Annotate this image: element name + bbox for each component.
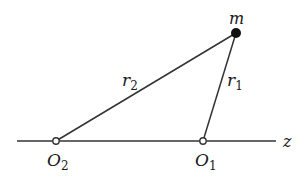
o2-label: O2 <box>47 150 69 173</box>
r2-label: r2 <box>122 70 138 93</box>
r1-label: r1 <box>227 70 243 93</box>
r2-segment <box>56 33 236 141</box>
mass-label: m <box>229 9 244 28</box>
diagram-canvas: m z r2 r1 O2 O1 <box>0 0 307 182</box>
o1-label: O1 <box>195 150 217 173</box>
point-o1 <box>200 138 206 144</box>
mass-point <box>231 28 241 38</box>
point-o2 <box>53 138 59 144</box>
axis-label-z: z <box>282 132 292 151</box>
